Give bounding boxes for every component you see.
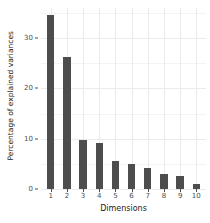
bar bbox=[79, 140, 86, 189]
x-axis-tick-label: 6 bbox=[129, 193, 133, 200]
x-axis-tick-label: 3 bbox=[81, 193, 85, 200]
y-axis-tick-label: 30 bbox=[24, 35, 33, 42]
x-axis-title: Dimensions bbox=[41, 205, 206, 213]
x-axis-tick-label: 9 bbox=[178, 193, 182, 200]
bar bbox=[63, 57, 70, 189]
bar-series bbox=[41, 8, 206, 189]
x-axis-tick-label: 8 bbox=[162, 193, 166, 200]
bar bbox=[176, 176, 183, 189]
bar bbox=[160, 174, 167, 189]
x-axis-tick-label: 4 bbox=[97, 193, 101, 200]
y-axis-tick-mark bbox=[35, 88, 38, 89]
x-axis-tick-label: 2 bbox=[65, 193, 69, 200]
y-axis-tick-mark bbox=[35, 138, 38, 139]
bar bbox=[96, 143, 103, 189]
plot-panel bbox=[41, 8, 206, 189]
y-axis-tick-label: 20 bbox=[24, 85, 33, 92]
y-axis-tick-mark bbox=[35, 38, 38, 39]
y-axis-title: Percentage of explained variances bbox=[7, 16, 15, 176]
bar bbox=[112, 161, 119, 189]
x-axis: 12345678910 bbox=[41, 189, 206, 205]
bar bbox=[144, 168, 151, 189]
y-axis-tick-label: 0 bbox=[29, 186, 33, 193]
bar bbox=[47, 15, 54, 189]
x-axis-tick-label: 5 bbox=[113, 193, 117, 200]
y-axis-tick-label: 10 bbox=[24, 135, 33, 142]
x-axis-tick-label: 7 bbox=[146, 193, 150, 200]
x-axis-tick-label: 1 bbox=[48, 193, 52, 200]
scree-plot-figure: 0102030 Percentage of explained variance… bbox=[0, 0, 210, 223]
y-axis-tick-mark bbox=[35, 189, 38, 190]
bar bbox=[128, 164, 135, 189]
x-axis-tick-label: 10 bbox=[192, 193, 201, 200]
